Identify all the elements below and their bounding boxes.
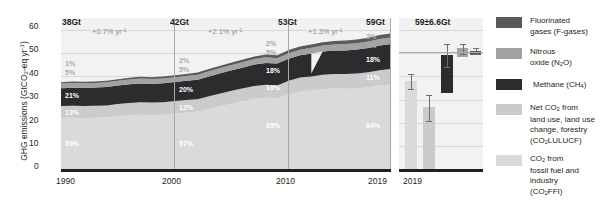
area-series-svg	[61, 18, 391, 170]
legend-swatch-ch4	[496, 79, 522, 90]
total-label-2019: 59Gt	[366, 18, 385, 27]
y-axis-title: GHG emissions (GtCO2-eq yr-1)	[19, 21, 29, 181]
bar-n2o-errorbar	[463, 44, 464, 55]
share-2019-lulucf: 11%	[366, 74, 380, 81]
share-2000-lulucf: 12%	[179, 104, 193, 111]
share-2010-n2o: 5%	[266, 49, 276, 56]
year-marker-2010	[288, 18, 289, 170]
figure-root: GHG emissions (GtCO2-eq yr-1) 0 10 20 30…	[0, 0, 608, 204]
total-label-1990: 38Gt	[62, 18, 81, 27]
total-label-2010: 53Gt	[278, 18, 297, 27]
legend-swatch-co2ffi	[496, 155, 522, 166]
legend-swatch-lulucf	[496, 104, 522, 115]
bar-panel-total-label: 59±6.6Gt	[415, 18, 450, 27]
legend-label-fgases: Fluorinatedgases (F-gases)	[530, 16, 588, 37]
share-2010-fgases: 2%	[266, 40, 276, 47]
year-marker-2000	[174, 18, 175, 170]
share-2019-co2ffi: 64%	[366, 122, 380, 129]
growth-rate-1990-2000: +0.7% yr-1	[92, 28, 126, 36]
share-2010-lulucf: 10%	[266, 84, 280, 91]
y-tick-30: 30	[29, 92, 38, 101]
growth-rate-2000-2010: +2.1% yr-1	[208, 28, 242, 36]
share-1990-co2ffi: 59%	[65, 140, 79, 147]
y-tick-50: 50	[29, 45, 38, 54]
legend-label-n2o: Nitrousoxide (N2O)	[530, 47, 572, 69]
growth-rate-2010-2019: +1.3% yr-1	[308, 28, 342, 36]
share-2000-fgases: 2%	[179, 57, 189, 64]
x-tick-2019: 2019	[368, 177, 387, 186]
legend-swatch-n2o	[496, 48, 522, 59]
y-tick-10: 10	[29, 139, 38, 148]
share-2000-n2o: 5%	[179, 66, 189, 73]
x-tick-2000: 2000	[162, 177, 181, 186]
share-1990-fgases: 1%	[65, 60, 75, 67]
share-1990-n2o: 5%	[65, 69, 75, 76]
share-1990-lulucf: 13%	[65, 109, 79, 116]
y-tick-0: 0	[34, 162, 39, 171]
legend-label-co2ffi: CO2 fromfossil fuel andindustry(CO2FFI)	[530, 154, 579, 198]
legend-label-lulucf: Net CO2 fromland use, land usechange, fo…	[530, 103, 595, 147]
bar-ch4-errorbar	[447, 44, 448, 68]
year-marker-2019	[390, 18, 391, 170]
total-label-2000: 42Gt	[170, 18, 189, 27]
bar-total-reference-line	[399, 52, 483, 53]
share-2019-ch4: 18%	[366, 56, 380, 63]
bar-co2ffi	[405, 81, 417, 170]
bar-breakdown-chart	[399, 18, 483, 170]
legend-label-ch4: Methane (CH4)	[533, 80, 586, 92]
x-tick-2010: 2010	[276, 177, 295, 186]
bar-co2ffi-errorbar	[411, 74, 412, 90]
y-tick-20: 20	[29, 116, 38, 125]
legend-swatch-fgases	[496, 17, 522, 28]
share-2019-fgases: 2%	[366, 33, 376, 40]
bar-gridline-60	[399, 30, 483, 31]
bar-axis-baseline	[399, 169, 483, 172]
share-2010-co2ffi: 65%	[266, 122, 280, 129]
share-2000-ch4: 20%	[179, 86, 193, 93]
share-1990-ch4: 21%	[65, 92, 79, 99]
y-tick-60: 60	[29, 22, 38, 31]
share-2000-co2ffi: 57%	[179, 140, 193, 147]
x-tick-bar-2019: 2019	[403, 177, 422, 186]
stacked-area-chart: 1% 5% 21% 13% 59% 2% 5% 20% 12% 57% 2% 5…	[61, 18, 391, 170]
share-2019-n2o: 5%	[366, 42, 376, 49]
x-tick-1990: 1990	[56, 177, 75, 186]
bar-co2lulucf-errorbar	[429, 95, 430, 122]
area-axis-baseline	[61, 169, 391, 172]
y-tick-40: 40	[29, 69, 38, 78]
share-2010-ch4: 18%	[266, 67, 280, 74]
